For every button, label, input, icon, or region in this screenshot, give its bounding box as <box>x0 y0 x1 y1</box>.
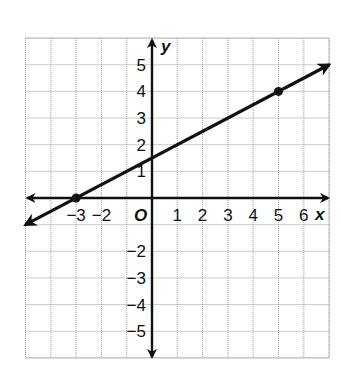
x-tick-label: 2 <box>198 206 207 225</box>
x-tick-labels: −3−2123456 <box>66 206 308 225</box>
origin-label: O <box>134 206 147 225</box>
y-tick-label: 5 <box>137 56 146 75</box>
y-tick-label: 3 <box>137 109 146 128</box>
y-tick-label: −3 <box>127 269 146 288</box>
x-tick-label: 3 <box>223 206 232 225</box>
y-tick-label: 4 <box>137 82 146 101</box>
data-point <box>274 87 283 96</box>
y-tick-label: −5 <box>127 322 146 341</box>
x-axis-label: x <box>314 205 326 224</box>
y-axis-label: y <box>160 37 172 56</box>
y-tick-label: −2 <box>127 242 146 261</box>
x-tick-label: 6 <box>299 206 308 225</box>
y-tick-label: −4 <box>127 296 146 315</box>
data-point <box>72 194 81 203</box>
x-tick-label: −2 <box>92 206 111 225</box>
x-tick-label: −3 <box>66 206 85 225</box>
x-tick-label: 5 <box>274 206 283 225</box>
y-tick-label: 2 <box>137 136 146 155</box>
coordinate-plane: −3−2123456 54321−2−3−4−5 x y O <box>0 0 341 365</box>
x-tick-label: 1 <box>173 206 182 225</box>
x-tick-label: 4 <box>248 206 257 225</box>
